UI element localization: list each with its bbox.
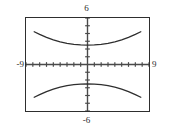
graph-screenshot: 6 -6 -9 9 (0, 0, 173, 129)
plot-frame (25, 17, 150, 112)
plot-canvas (26, 18, 149, 111)
axes-group (26, 18, 149, 111)
y-max-label: 6 (0, 4, 173, 13)
x-max-label: 9 (152, 60, 172, 69)
y-min-label: -6 (0, 116, 173, 125)
x-min-label: -9 (1, 60, 24, 69)
